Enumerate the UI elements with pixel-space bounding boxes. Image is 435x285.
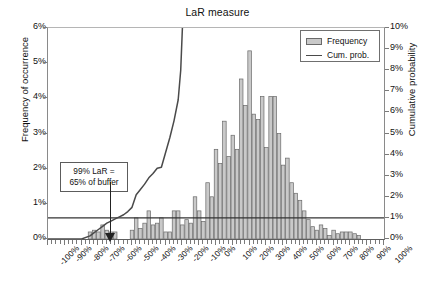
y-tickmark-right [385,133,389,134]
x-tickmark-major [131,240,132,245]
histogram-bar [290,183,294,239]
histogram-bar [223,121,227,239]
x-tickmark-minor [324,240,325,244]
histogram-bar [286,158,290,239]
x-tickmark-minor [93,240,94,244]
x-tickmark-minor [156,240,157,244]
y-tick-right-8: 8% [390,64,430,73]
y-tick-right-4: 4% [390,149,430,158]
cumulative-probability-line [48,28,184,239]
x-tickmark-minor [354,240,355,244]
x-tickmark-minor [207,240,208,244]
x-tick-label-12: 20% [257,244,275,262]
line-swatch-icon [306,55,322,56]
histogram-bar [252,114,256,239]
x-tickmark-major [265,240,266,245]
x-tickmark-major [349,240,350,245]
x-tickmark-minor [144,240,145,244]
histogram-bar [277,134,281,240]
x-tickmark-minor [68,240,69,244]
x-tickmark-major [181,240,182,245]
x-tick-label-14: 40% [291,244,309,262]
x-tickmark-minor [127,240,128,244]
y-tick-right-2: 2% [390,191,430,200]
x-tickmark-minor [152,240,153,244]
x-tickmark-minor [123,240,124,244]
histogram-bar [155,223,159,239]
x-tick-label-18: 80% [358,244,376,262]
lar-measure-chart: LaR measure Frequency of occurrence Cumu… [0,0,435,285]
x-tickmark-minor [169,240,170,244]
y-tick-left-3: 3% [6,128,46,137]
histogram-bar [134,218,138,239]
y-tick-left-6: 6% [6,22,46,31]
x-tick-label-2: -80% [90,244,110,264]
legend-item-frequency: Frequency [306,35,375,47]
histogram-bar [168,232,172,239]
x-tickmark-minor [202,240,203,244]
x-tick-label-6: -40% [157,244,177,264]
x-tickmark-minor [85,240,86,244]
histogram-bar [151,225,155,239]
y-tickmark-right [385,90,389,91]
x-tickmark-minor [173,240,174,244]
histogram-bar [160,218,164,239]
x-tick-label-11: 10% [241,244,259,262]
histogram-bar [206,183,210,239]
x-tickmark-minor [328,240,329,244]
x-tickmark-minor [240,240,241,244]
x-tickmark-major [47,240,48,245]
histogram-bar [294,193,298,239]
x-tickmark-major [97,240,98,245]
x-tickmark-minor [177,240,178,244]
histogram-bar [328,235,332,239]
x-tickmark-major [64,240,65,245]
y-tick-right-6: 6% [390,106,430,115]
y-tickmark-right [385,154,389,155]
histogram-bar [239,79,243,239]
x-tickmark-minor [303,240,304,244]
histogram-bar [181,225,185,239]
y-tick-right-1: 1% [390,212,430,221]
x-tickmark-minor [190,240,191,244]
x-tickmark-minor [295,240,296,244]
x-tick-label-8: -20% [191,244,211,264]
x-tick-label-16: 60% [325,244,343,262]
legend-label-frequency: Frequency [327,36,367,46]
x-tickmark-minor [72,240,73,244]
y-tickmark-right [385,27,389,28]
histogram-bar [323,228,327,239]
x-tickmark-minor [253,240,254,244]
histogram-bar [340,232,344,239]
y-tickmark-right [385,48,389,49]
legend-item-cumulative: Cum. prob. [306,49,375,61]
x-tick-label-4: -60% [124,244,144,264]
x-tickmark-minor [337,240,338,244]
lar-annotation-box: 99% LaR = 65% of buffer [60,162,128,192]
histogram-bar [231,135,235,239]
x-tickmark-minor [261,240,262,244]
histogram-bar [185,220,189,239]
histogram-bar [164,232,168,239]
x-tick-label-3: -70% [107,244,127,264]
chart-title: LaR measure [0,6,435,18]
chart-legend: Frequency Cum. prob. [300,30,380,62]
x-tickmark-minor [345,240,346,244]
y-tickmark-right [385,217,389,218]
x-tickmark-minor [228,240,229,244]
x-tick-label-5: -50% [141,244,161,264]
x-tickmark-minor [274,240,275,244]
histogram-bar [235,149,239,239]
histogram-bar [336,234,340,239]
histogram-bar [202,221,206,239]
y-tick-right-3: 3% [390,170,430,179]
x-tickmark-major [81,240,82,245]
histogram-bar [315,230,319,239]
y-tick-right-5: 5% [390,128,430,137]
x-tickmark-major [249,240,250,245]
histogram-bar [176,211,180,239]
annotation-arrow-head [105,233,115,242]
y-tick-left-2: 2% [6,163,46,172]
histogram-bar [244,105,248,239]
histogram-bar [281,165,285,239]
